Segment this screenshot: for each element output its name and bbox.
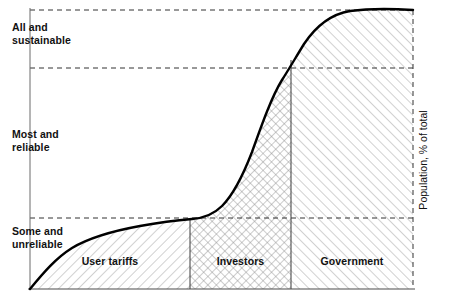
y-category-label-most-reliable: Most and reliable bbox=[12, 128, 59, 154]
segment-label-government: Government bbox=[291, 255, 413, 267]
y-category-label-some-unreliable: Some and unreliable bbox=[12, 225, 63, 251]
y-category-label-all-sustainable: All and sustainable bbox=[12, 21, 71, 47]
y-axis-title: Population, % of total bbox=[417, 80, 429, 240]
segment-label-user-tariffs: User tariffs bbox=[30, 255, 190, 267]
segment-label-investors: Investors bbox=[190, 255, 291, 267]
population-access-funding-chart: All and sustainable Most and reliable So… bbox=[0, 0, 450, 300]
